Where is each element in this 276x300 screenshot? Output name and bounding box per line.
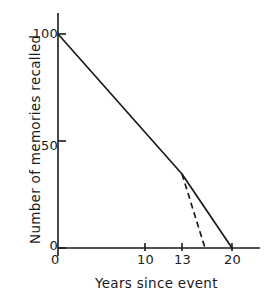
x-tick-label-10: 10 [137, 252, 154, 267]
series-projected-decline-line [182, 174, 205, 248]
x-axis-title: Years since event [95, 275, 218, 291]
x-tick-label-20: 20 [224, 252, 241, 267]
chart-figure: 100 50 0 0 10 13 20 Years since event Nu… [0, 0, 276, 300]
y-tick-label-50: 50 [41, 138, 58, 153]
y-tick-label-0: 0 [50, 238, 58, 253]
series-observed-decline-line [58, 34, 232, 248]
y-axis-title: Number of memories recalled [27, 44, 43, 244]
x-tick-label-0: 0 [51, 252, 59, 267]
x-tick-label-13: 13 [174, 252, 191, 267]
